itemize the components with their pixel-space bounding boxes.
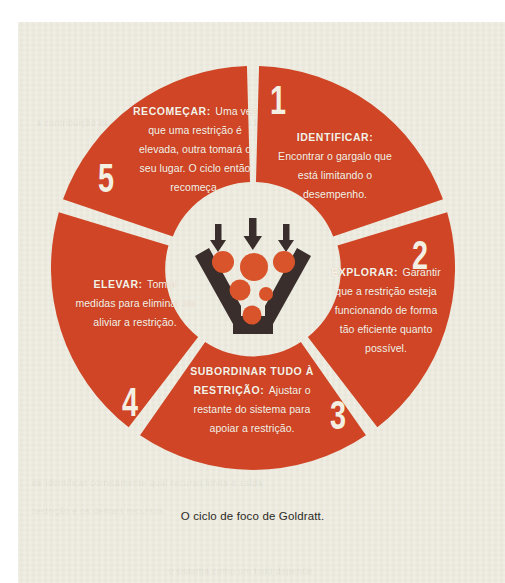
segment-text-recomecar: RECOMEÇAR: Uma vez que uma restrição é e… <box>132 101 258 195</box>
segment-number-2: 2 <box>406 235 435 275</box>
segment-heading: EXPLORAR: <box>331 266 398 278</box>
segment-heading: IDENTIFICAR: <box>297 131 374 143</box>
funnel-ball <box>230 280 251 301</box>
funnel-ball <box>240 253 268 281</box>
funnel-bottleneck-icon <box>195 218 311 334</box>
funnel-ball <box>243 306 262 325</box>
down-arrow-left <box>210 224 226 252</box>
segment-number-4: 4 <box>116 382 145 422</box>
segment-number-5: 5 <box>92 158 121 198</box>
segment-body: Garantir que a restrição esteja funciona… <box>335 266 441 354</box>
down-arrow-right <box>278 224 294 252</box>
goldratt-focus-cycle-diagram: IDENTIFICAR: Encontrar o gargalo que est… <box>0 0 505 583</box>
segment-text-elevar: ELEVAR: Tomar medidas para eliminar ou a… <box>73 274 197 331</box>
segment-number-1: 1 <box>264 80 293 120</box>
segment-body: Encontrar o gargalo que está limitando o… <box>278 150 392 200</box>
segment-heading: ELEVAR: <box>93 278 142 290</box>
down-arrow-center <box>244 218 263 250</box>
figure-caption: O ciclo de foco de Goldratt. <box>0 510 505 522</box>
figure-page: a contribuição de cada etapa o sistema c… <box>0 0 505 583</box>
segment-number-3: 3 <box>324 395 353 435</box>
funnel-ball <box>273 251 295 273</box>
segment-heading: RECOMEÇAR: <box>133 105 211 117</box>
down-arrows-group <box>210 218 294 252</box>
segment-body: Uma vez que uma restrição é elevada, out… <box>139 105 257 193</box>
segment-text-identificar: IDENTIFICAR: Encontrar o gargalo que est… <box>276 127 394 203</box>
segment-text-subordinar: SUBORDINAR TUDO À RESTRIÇÃO: Ajustar o r… <box>186 361 318 437</box>
funnel-ball <box>212 251 234 273</box>
funnel-ball <box>259 287 273 301</box>
